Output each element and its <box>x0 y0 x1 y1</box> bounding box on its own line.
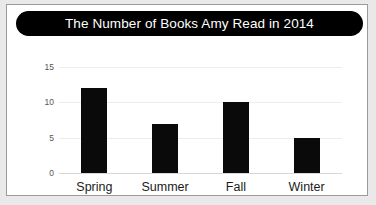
y-axis-tick-label: 0 <box>49 168 54 178</box>
y-axis-tick-label: 10 <box>45 97 54 107</box>
bar-slot <box>130 67 201 173</box>
x-axis-label-winter: Winter <box>289 180 325 194</box>
bar-slot <box>201 67 272 173</box>
bar-winter <box>294 138 320 173</box>
x-axis-label-spring: Spring <box>76 180 112 194</box>
page-title: The Number of Books Amy Read in 2014 <box>65 16 314 31</box>
x-label-slot: Spring <box>59 177 130 195</box>
x-label-slot: Winter <box>271 177 342 195</box>
x-label-slot: Summer <box>130 177 201 195</box>
x-axis-label-fall: Fall <box>226 180 246 194</box>
bar-summer <box>152 124 178 173</box>
x-axis-label-summer: Summer <box>142 180 189 194</box>
bar-series <box>59 67 342 173</box>
gridline <box>59 173 342 174</box>
bar-slot <box>271 67 342 173</box>
y-axis-tick-label: 5 <box>49 133 54 143</box>
bar-slot <box>59 67 130 173</box>
plot-area: 051015 <box>59 67 342 173</box>
x-label-slot: Fall <box>201 177 272 195</box>
chart-card: The Number of Books Amy Read in 2014 051… <box>6 4 368 196</box>
chart-page: The Number of Books Amy Read in 2014 051… <box>0 0 376 205</box>
y-axis-tick-label: 15 <box>45 62 54 72</box>
x-axis-labels: SpringSummerFallWinter <box>59 177 342 195</box>
bar-fall <box>223 102 249 173</box>
bar-spring <box>81 88 107 173</box>
chart-title-banner: The Number of Books Amy Read in 2014 <box>16 11 363 36</box>
